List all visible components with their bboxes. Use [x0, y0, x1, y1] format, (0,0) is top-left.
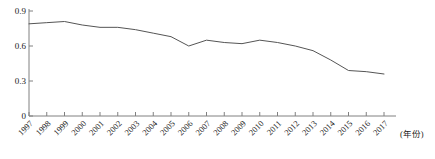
x-axis-title: (年份): [400, 129, 424, 139]
y-tick-label: 0.3: [15, 76, 27, 86]
line-chart: 00.30.60.9 19971998199920002001200220032…: [0, 0, 435, 159]
y-tick-label: 0.6: [15, 41, 27, 51]
chart-canvas: 00.30.60.9 19971998199920002001200220032…: [0, 0, 435, 159]
x-tick-marks: [29, 112, 384, 116]
y-tick-label: 0.9: [15, 6, 27, 16]
